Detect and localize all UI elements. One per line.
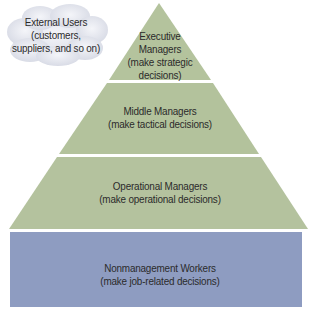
cloud-label: External Users (customers, suppliers, an… <box>9 16 103 55</box>
executive-label: Executive Managers (make strategic decis… <box>123 30 197 82</box>
operational-label: Operational Managers (make operational d… <box>79 180 241 206</box>
middle-label: Middle Managers (make tactical decisions… <box>88 105 232 131</box>
nonmanagement-label: Nonmanagement Workers (make job-related … <box>79 262 241 288</box>
